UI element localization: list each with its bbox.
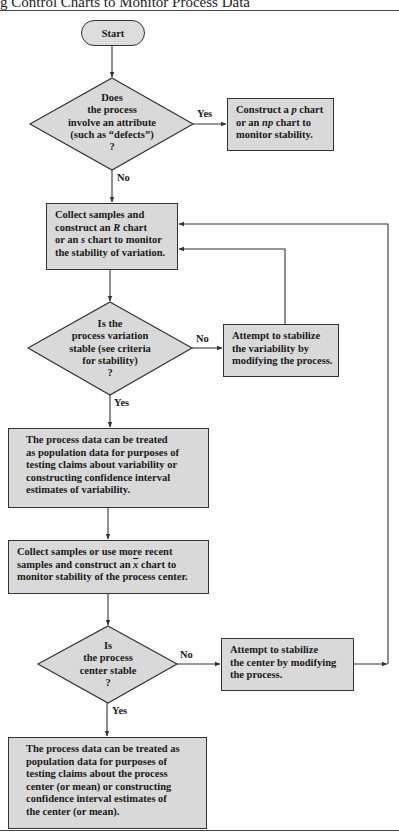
text: testing claims about variability or <box>26 459 200 472</box>
decision-variation-yes-label: Yes <box>114 397 129 408</box>
text-italic: np <box>262 117 273 128</box>
box-stabilize-center: Attempt to stabilize the center by modif… <box>221 638 354 691</box>
text: Construct a <box>236 104 291 115</box>
text: the process. <box>230 669 345 682</box>
text: the center by modifying <box>230 657 345 670</box>
text: confidence interval estimates of <box>26 793 198 806</box>
text: the center (or mean). <box>26 806 198 819</box>
text: constructing confidence interval <box>26 472 200 485</box>
text: chart to <box>138 559 176 570</box>
decision-line: for stability) <box>40 355 180 367</box>
decision-line: (such as “defects”) <box>40 129 184 141</box>
text: center (or mean) or constructing <box>26 781 198 794</box>
text: construct an <box>55 222 113 233</box>
text: The process data can be treated as <box>26 743 198 756</box>
box-p-chart: Construct a p chart or an np chart to mo… <box>227 98 334 151</box>
box-stabilize-variability: Attempt to stabilize the variability by … <box>223 324 339 377</box>
decision-line: the process <box>48 652 168 664</box>
decision-center-yes-label: Yes <box>112 705 127 716</box>
decision-attribute-yes-label: Yes <box>197 108 212 119</box>
decision-line: process variation <box>40 330 180 342</box>
decision-center-stable: Is the process center stable ? <box>48 640 168 689</box>
text: chart to <box>273 117 311 128</box>
text: monitor stability of the process center. <box>17 571 200 584</box>
decision-line: ? <box>48 677 168 689</box>
text: Collect samples and <box>55 209 169 222</box>
decision-center-no-label: No <box>180 649 193 660</box>
decision-line: the process <box>40 104 184 116</box>
start-label: Start <box>102 28 125 39</box>
text: Collect samples or use more recent <box>17 546 200 559</box>
decision-line: stable (see criteria <box>40 343 180 355</box>
text: chart <box>297 104 324 115</box>
text: estimates of variability. <box>26 484 200 497</box>
text: samples and construct an <box>17 559 133 570</box>
bottom-divider <box>0 830 399 831</box>
box-population-center: The process data can be treated as popul… <box>8 737 207 829</box>
decision-variation-no-label: No <box>196 333 209 344</box>
text: chart to monitor <box>85 234 162 245</box>
text: testing claims about the process <box>26 768 198 781</box>
text: the stability of variation. <box>55 247 169 260</box>
decision-attribute: Does the process involve an attribute (s… <box>40 92 184 153</box>
box-population-variability: The process data can be treated as popul… <box>8 428 209 508</box>
decision-variation-stable: Is the process variation stable (see cri… <box>40 318 180 379</box>
text: monitor stability. <box>236 129 325 142</box>
text: Attempt to stabilize <box>230 644 345 657</box>
decision-line: involve an attribute <box>40 117 184 129</box>
text: as population data for purposes of <box>26 447 200 460</box>
decision-line: Is <box>48 640 168 652</box>
text: modifying the process. <box>232 355 330 368</box>
decision-attribute-no-label: No <box>117 172 130 183</box>
text: Attempt to stabilize <box>232 330 330 343</box>
decision-line: ? <box>40 367 180 379</box>
decision-line: ? <box>40 141 184 153</box>
text: or an <box>55 234 81 245</box>
decision-line: Is the <box>40 318 180 330</box>
start-terminal: Start <box>81 20 145 46</box>
box-xbar-chart: Collect samples or use more recent sampl… <box>8 540 209 594</box>
text: population data for purposes of <box>26 756 198 769</box>
text: or an <box>236 117 262 128</box>
text: The process data can be treated <box>26 434 200 447</box>
decision-line: center stable <box>48 665 168 677</box>
text: the variability by <box>232 343 330 356</box>
decision-line: Does <box>40 92 184 104</box>
text: chart <box>120 222 147 233</box>
box-r-chart: Collect samples and construct an R chart… <box>46 203 178 270</box>
